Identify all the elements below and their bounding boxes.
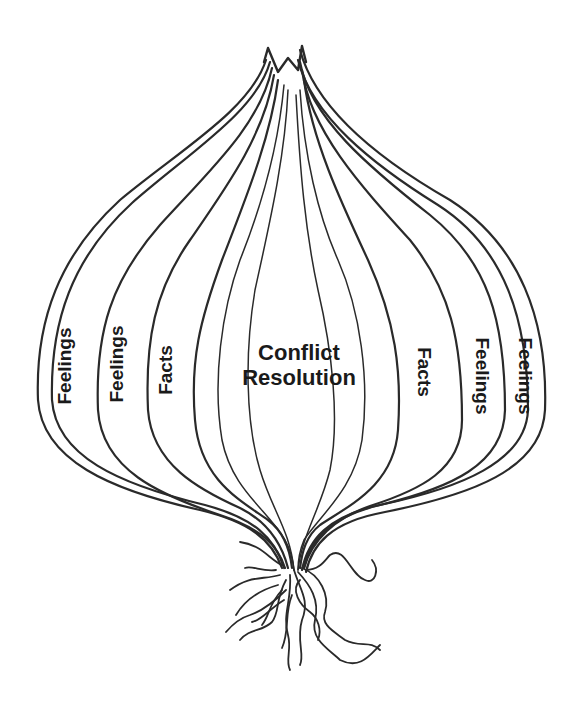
- core-lines-right: [296, 90, 365, 570]
- layer-boundary-right-3: [302, 70, 462, 568]
- layer-boundary-right-2: [300, 62, 505, 568]
- core-lines-left: [218, 85, 294, 570]
- layer-label-left-outer: Feelings: [55, 327, 74, 404]
- layer-boundary-left-4: [194, 80, 292, 568]
- core-label-line-1: Conflict: [242, 340, 356, 365]
- layer-boundary-left-2: [98, 68, 285, 568]
- layer-label-left-inner: Facts: [156, 345, 175, 395]
- layer-label-right-outer: Feelings: [516, 337, 535, 414]
- layer-label-right-inner: Facts: [415, 347, 434, 397]
- core-label: Conflict Resolution: [242, 340, 356, 390]
- onion-roots: [226, 542, 380, 670]
- core-label-line-2: Resolution: [242, 365, 356, 390]
- layer-label-left-middle: Feelings: [107, 325, 126, 402]
- layer-boundary-right-4: [300, 80, 399, 568]
- layer-label-right-middle: Feelings: [473, 337, 492, 414]
